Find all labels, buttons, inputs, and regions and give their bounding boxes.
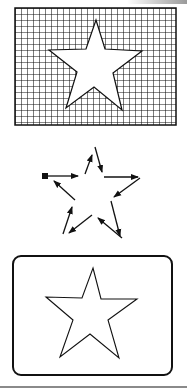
arrow-icon — [95, 147, 102, 172]
arrow-icon — [114, 178, 140, 197]
arrow-icon — [63, 207, 72, 234]
arrow-icon — [85, 155, 92, 174]
arrow-icon — [69, 215, 92, 233]
bottom-rule — [0, 386, 187, 388]
arrow-traced-star-panel — [42, 147, 140, 238]
grid-filled-star-panel — [15, 8, 176, 125]
star-outline — [46, 268, 137, 358]
rounded-frame — [13, 256, 172, 375]
boxed-star-outline-panel — [13, 256, 172, 375]
arrow-icon — [54, 181, 75, 200]
star-figure — [0, 0, 187, 390]
